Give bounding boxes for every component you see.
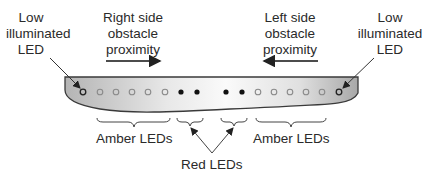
label-line: LED	[355, 42, 425, 58]
label-line: Left side	[260, 10, 320, 26]
left-low-led-label: Low illuminated LED	[6, 10, 56, 58]
amber-right-brace	[256, 118, 326, 127]
label-line: illuminated	[6, 26, 56, 42]
label-line: obstacle	[100, 26, 166, 42]
left-side-proximity-label: Left side obstacle proximity	[260, 10, 320, 58]
label-line: Low	[6, 10, 56, 26]
red-led	[178, 89, 183, 94]
right-low-led-label: Low illuminated LED	[355, 10, 425, 58]
led-bar	[65, 77, 358, 112]
label-line: proximity	[100, 42, 166, 58]
label-line: LED	[6, 42, 56, 58]
amber-leds-left-label: Amber LEDs	[96, 131, 173, 147]
red-left-brace	[177, 118, 203, 126]
amber-leds-right-label: Amber LEDs	[253, 131, 330, 147]
red-right-brace	[221, 118, 247, 126]
amber-left-brace	[97, 118, 170, 127]
red-led	[223, 89, 228, 94]
label-line: obstacle	[260, 26, 320, 42]
label-line: Right side	[100, 10, 166, 26]
red-leds-label: Red LEDs	[181, 157, 243, 173]
red-pointer-right	[212, 128, 233, 153]
label-line: proximity	[260, 42, 320, 58]
label-line: illuminated	[355, 26, 425, 42]
label-line: Low	[355, 10, 425, 26]
right-side-proximity-label: Right side obstacle proximity	[100, 10, 166, 58]
red-led	[194, 89, 199, 94]
red-pointer-left	[191, 128, 212, 153]
red-led	[239, 89, 244, 94]
